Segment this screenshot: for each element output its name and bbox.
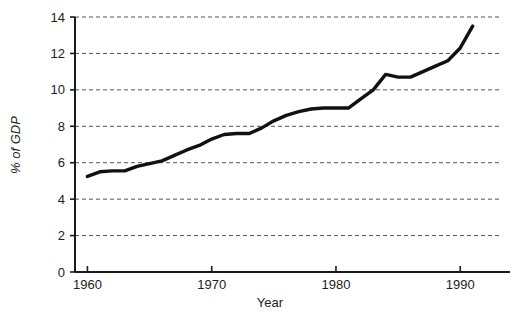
x-axis-title: Year — [257, 295, 284, 310]
x-axis-tick-label: 1960 — [73, 277, 102, 292]
x-axis-tick-labels: 1960197019801990 — [73, 277, 475, 292]
x-axis-tick-label: 1980 — [322, 277, 351, 292]
x-axis-group: 1960197019801990 — [73, 266, 510, 292]
y-axis-tick-label: 8 — [58, 119, 65, 134]
y-axis-tick-label: 12 — [51, 46, 65, 61]
x-axis-tick-label: 1970 — [197, 277, 226, 292]
y-axis-tick-label: 2 — [58, 228, 65, 243]
y-axis-tick-label: 0 — [58, 265, 65, 280]
chart-container: 02468101214 1960197019801990 Year % of G… — [0, 0, 516, 323]
y-axis-tick-label: 4 — [58, 192, 65, 207]
x-axis-tick-label: 1990 — [446, 277, 475, 292]
data-series-group — [87, 26, 472, 176]
y-axis-tick-label: 14 — [51, 10, 65, 25]
y-axis-tick-label: 6 — [58, 155, 65, 170]
y-axis-title: % of GDP — [8, 116, 23, 174]
line-chart: 02468101214 1960197019801990 Year % of G… — [0, 0, 516, 323]
y-axis-tick-label: 10 — [51, 82, 65, 97]
gridlines-group — [75, 17, 500, 236]
y-axis-group: 02468101214 — [51, 10, 75, 280]
data-line-percent-of-gdp — [87, 26, 472, 176]
y-axis-tick-labels: 02468101214 — [51, 10, 65, 280]
